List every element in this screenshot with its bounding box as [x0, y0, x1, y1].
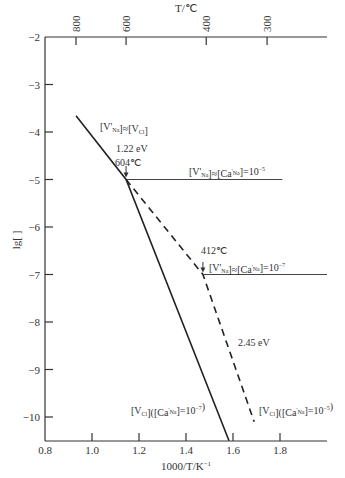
y-tick-label: −5: [28, 174, 40, 186]
top-axis-title: T/℃: [175, 2, 197, 14]
x-tick-label: 0.8: [38, 444, 52, 456]
annotation-vcl-10-7: [VCl]([Ca'Na]=10−7): [131, 401, 205, 419]
series-line: [126, 180, 254, 422]
y-axis-title: lg[ ]: [10, 231, 22, 250]
arrow-412-head: [200, 268, 205, 273]
series-line: [76, 116, 229, 441]
top-tick-label: 300: [261, 15, 273, 32]
y-tick-label: −7: [28, 269, 40, 281]
top-tick-label: 400: [200, 15, 212, 32]
y-tick-label: −4: [28, 126, 40, 138]
y-tick-label: −6: [28, 221, 40, 233]
annotation-ca-10-5: [V'Na]≈[Ca'Na]=10−5: [189, 166, 265, 179]
annotation-vcl-10-5: [VCl]([Ca'Na]=10−5): [259, 401, 333, 419]
top-tick-label: 800: [70, 15, 82, 32]
y-tick-label: −3: [28, 79, 40, 91]
chart: 0.81.01.21.41.61.8−2−3−4−5−6−7−8−9−10800…: [0, 0, 345, 478]
x-tick-label: 1.2: [132, 444, 146, 456]
x-tick-label: 1.4: [179, 444, 193, 456]
x-tick-label: 1.6: [226, 444, 240, 456]
y-tick-label: −9: [28, 364, 40, 376]
bottom-axis-title: 1000/T/K−1: [161, 460, 212, 472]
annotation-1-22ev: 1.22 eV: [116, 143, 148, 154]
annotation-vna-vcl: [V'Na]≈[VCl]: [100, 121, 148, 136]
x-tick-label: 1.8: [273, 444, 287, 456]
y-tick-label: −2: [28, 31, 40, 43]
y-tick-label: −10: [23, 411, 41, 423]
top-tick-label: 600: [120, 15, 132, 32]
y-tick-label: −8: [28, 316, 40, 328]
annotation-ca-10-7: [V'Na]≈[Ca'Na]=10−7: [209, 262, 285, 275]
annotation-604c: 604℃: [115, 157, 141, 168]
x-tick-label: 1.0: [85, 444, 99, 456]
annotation-412c: 412℃: [201, 245, 227, 256]
annotation-2-45ev: 2.45 eV: [238, 337, 270, 348]
